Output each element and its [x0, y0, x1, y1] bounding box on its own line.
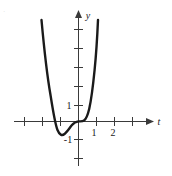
y-tick-label-1: 1: [67, 100, 72, 111]
y-tick-label-neg1: -1: [64, 134, 72, 145]
y-axis-name-label: y: [85, 10, 91, 21]
plot-canvas: 1 2 1 -1 t y: [0, 0, 172, 176]
x-axis-name-label: t: [158, 116, 161, 127]
graph-figure: · 1 2 1 -1 t y: [0, 0, 172, 176]
y-axis-arrow-icon: [75, 10, 82, 18]
x-tick-label-2: 2: [111, 127, 116, 138]
x-tick-label-1: 1: [92, 127, 97, 138]
curve-line: [42, 20, 99, 135]
x-axis-arrow-icon: [146, 118, 154, 125]
